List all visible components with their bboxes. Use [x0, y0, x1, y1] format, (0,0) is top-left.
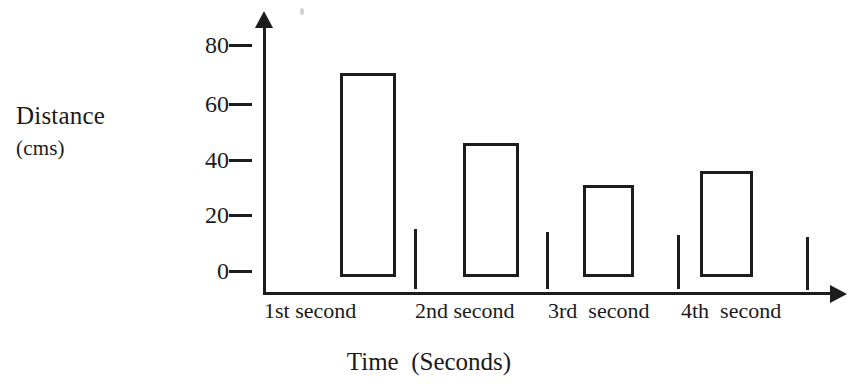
x-category-label-1: 1st second: [264, 300, 356, 322]
y-tick-mark-80: [229, 44, 252, 47]
y-axis-line: [263, 26, 266, 295]
y-tick-label-80: 80: [185, 33, 229, 57]
x-category-label-4: 4th second: [681, 300, 781, 322]
y-axis-title-line2: (cms): [16, 135, 176, 162]
bar-4th-second: [700, 171, 753, 277]
y-tick-mark-40: [229, 159, 252, 162]
x-category-separator-1: [414, 229, 417, 289]
y-tick-mark-60: [229, 103, 252, 106]
bar-3rd-second: [583, 185, 634, 277]
scan-artifact-speck: [300, 8, 304, 15]
y-axis-title: Distance (cms): [16, 100, 176, 162]
x-axis-title: Time (Seconds): [0, 348, 858, 376]
y-tick-mark-20: [229, 214, 252, 217]
x-axis-arrow-icon: [830, 285, 847, 303]
y-tick-mark-0: [229, 270, 252, 273]
y-axis-title-line1: Distance: [16, 100, 176, 133]
x-category-separator-4: [806, 237, 809, 290]
y-tick-label-0: 0: [185, 259, 229, 283]
bar-2nd-second: [463, 143, 519, 277]
y-tick-label-20: 20: [185, 203, 229, 227]
x-category-separator-2: [546, 232, 549, 289]
x-axis-line: [263, 292, 836, 295]
x-category-label-2: 2nd second: [415, 300, 515, 322]
x-category-label-3: 3rd second: [548, 300, 649, 322]
y-tick-label-60: 60: [185, 92, 229, 116]
x-category-separator-3: [677, 235, 680, 289]
bar-chart: Distance (cms) 80 60 40 20 0 1st second …: [0, 0, 858, 388]
bar-1st-second: [340, 73, 396, 277]
y-tick-label-40: 40: [185, 148, 229, 172]
